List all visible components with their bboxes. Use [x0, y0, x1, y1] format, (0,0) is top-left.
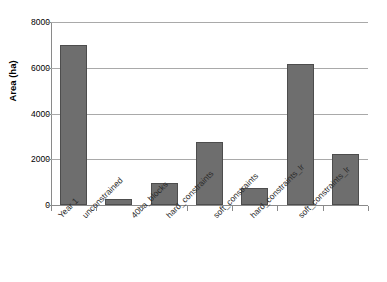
y-tick-mark: [46, 22, 51, 23]
y-tick-label: 4000: [16, 110, 50, 118]
y-tick-mark: [46, 68, 51, 69]
x-tick-mark: [232, 206, 233, 211]
x-tick-mark: [277, 206, 278, 211]
x-tick-mark: [96, 206, 97, 211]
y-axis-tick-labels: 02000400060008000: [10, 0, 50, 282]
y-tick-label: 8000: [16, 18, 50, 26]
y-tick-mark: [46, 114, 51, 115]
y-tick-label: 6000: [16, 64, 50, 72]
y-tick-label: 0: [16, 201, 50, 209]
x-tick-mark: [187, 206, 188, 211]
bar-chart: Area (ha) 02000400060008000 Year 1uncons…: [0, 0, 387, 282]
y-tick-label: 2000: [16, 155, 50, 163]
x-tick-mark: [51, 206, 52, 211]
x-tick-mark: [368, 206, 369, 211]
y-tick-mark: [46, 159, 51, 160]
x-axis-tick-labels: Year 1unconstrained40ha_blockshard_const…: [51, 205, 387, 282]
bar: [60, 45, 87, 205]
x-tick-mark: [323, 206, 324, 211]
x-tick-mark: [142, 206, 143, 211]
